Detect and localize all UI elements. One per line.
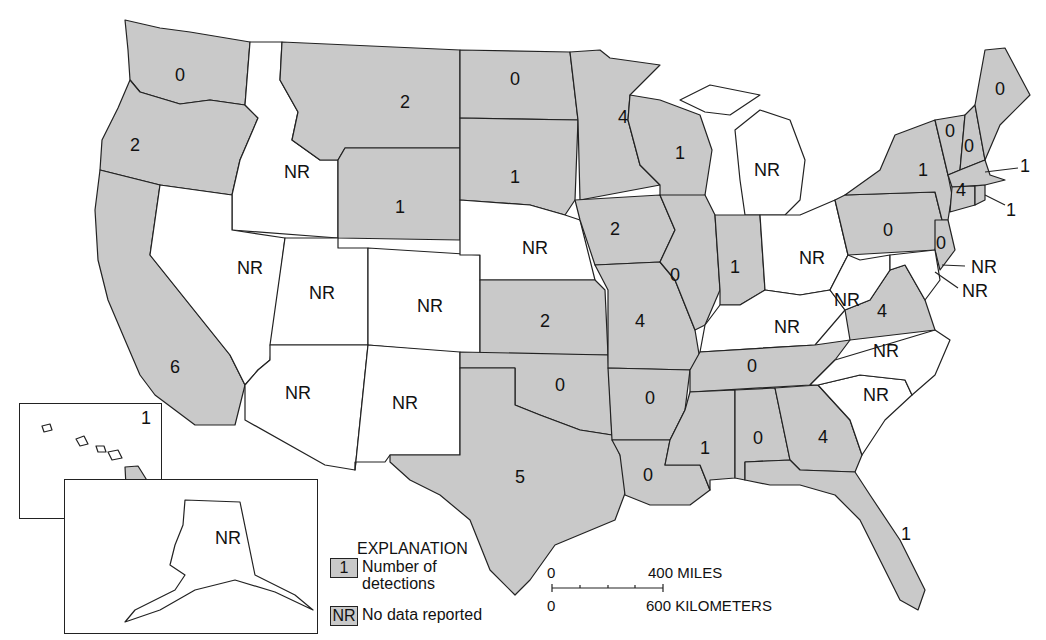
state-label-new-mexico: NR	[392, 394, 418, 412]
state-washington	[125, 20, 250, 105]
state-label-connecticut: 4	[956, 181, 966, 199]
state-montana	[280, 42, 460, 160]
state-label-maryland: NR	[962, 282, 988, 300]
state-iowa	[575, 195, 675, 265]
alaska-shape	[65, 480, 317, 633]
alaska-inset	[64, 479, 318, 634]
state-label-west-virginia: NR	[834, 291, 860, 309]
state-label-texas: 5	[515, 468, 525, 486]
state-label-michigan: NR	[754, 161, 780, 179]
scale-miles-zero: 0	[547, 564, 555, 581]
callout-line-rhode-island	[985, 195, 1005, 205]
state-label-utah: NR	[309, 284, 335, 302]
state-label-montana: 2	[400, 93, 410, 111]
scale-km-zero: 0	[547, 597, 555, 614]
state-label-louisiana: 0	[643, 466, 653, 484]
state-label-north-dakota: 0	[510, 70, 520, 88]
state-florida	[745, 460, 925, 610]
state-label-kentucky: NR	[774, 318, 800, 336]
state-label-vermont: 0	[945, 122, 955, 140]
state-label-indiana: 1	[730, 258, 740, 276]
legend-detections-swatch: 1	[330, 558, 358, 578]
state-label-wyoming: 1	[395, 198, 405, 216]
state-label-new-jersey: 0	[936, 234, 946, 252]
state-label-california: 6	[170, 358, 180, 376]
state-wyoming	[338, 148, 460, 240]
callout-line-delaware	[942, 265, 965, 266]
state-label-iowa: 2	[610, 220, 620, 238]
state-label-new-york: 1	[918, 161, 928, 179]
state-label-mississippi: 1	[700, 439, 710, 457]
state-label-pennsylvania: 0	[883, 221, 893, 239]
state-label-tennessee: 0	[747, 357, 757, 375]
state-label-wisconsin: 1	[675, 144, 685, 162]
state-label-massachusetts: 1	[1020, 157, 1030, 175]
state-label-hawaii: 1	[141, 409, 151, 427]
state-label-ohio: NR	[799, 249, 825, 267]
state-label-florida: 1	[901, 525, 911, 543]
state-label-nebraska: NR	[522, 239, 548, 257]
state-label-colorado: NR	[417, 297, 443, 315]
state-rhode-island	[975, 185, 985, 205]
state-label-alabama: 0	[753, 429, 763, 447]
state-label-oklahoma: 0	[555, 376, 565, 394]
callout-line-massachusetts	[985, 168, 1018, 172]
state-label-new-hampshire: 0	[964, 137, 974, 155]
state-label-illinois: 0	[670, 266, 680, 284]
state-label-missouri: 4	[635, 312, 645, 330]
state-label-nevada: NR	[237, 259, 263, 277]
state-label-rhode-island: 1	[1006, 201, 1016, 219]
state-label-maine: 0	[995, 80, 1005, 98]
state-label-south-dakota: 1	[510, 168, 520, 186]
state-label-arizona: NR	[285, 384, 311, 402]
state-label-idaho: NR	[284, 163, 310, 181]
state-label-georgia: 4	[818, 428, 828, 446]
state-label-south-carolina: NR	[863, 386, 889, 404]
legend-detections: 1 Number of detections	[330, 558, 437, 592]
legend-nr-label: No data reported	[362, 606, 482, 624]
state-label-minnesota: 4	[618, 108, 628, 126]
state-label-north-carolina: NR	[873, 342, 899, 360]
legend-title: EXPLANATION	[357, 540, 468, 558]
state-label-oregon: 2	[130, 136, 140, 154]
legend-nr-swatch: NR	[330, 606, 358, 626]
state-maine	[975, 48, 1030, 160]
state-label-washington: 0	[175, 66, 185, 84]
state-label-alaska: NR	[215, 529, 241, 547]
scale-miles-label: 400 MILES	[648, 564, 722, 581]
legend-no-data: NR No data reported	[330, 606, 482, 626]
state-label-kansas: 2	[540, 312, 550, 330]
scale-km-label: 600 KILOMETERS	[646, 597, 772, 614]
state-label-delaware: NR	[971, 258, 997, 276]
state-label-arkansas: 0	[645, 389, 655, 407]
legend-detections-label: Number of detections	[362, 558, 437, 592]
state-label-virginia: 4	[877, 302, 887, 320]
